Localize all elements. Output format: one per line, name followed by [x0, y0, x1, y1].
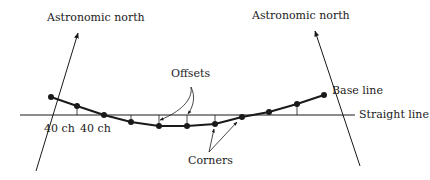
- label-straight-line: Straight line: [359, 108, 429, 121]
- label-corners: Corners: [188, 154, 233, 167]
- label-chain-1: 40 ch: [44, 122, 75, 135]
- label-base-line: Base line: [332, 84, 383, 97]
- north-arrow-right: [315, 31, 360, 166]
- label-chain-2: 40 ch: [80, 122, 111, 135]
- north-arrow-left: [36, 33, 78, 171]
- corners-leader-2: [209, 122, 237, 152]
- label-north-left: Astronomic north: [46, 11, 145, 24]
- corners-leader-1: [209, 129, 214, 152]
- survey-diagram: Astronomic north Astronomic north Offset…: [0, 0, 430, 180]
- label-north-right: Astronomic north: [251, 9, 350, 22]
- label-offsets: Offsets: [171, 67, 210, 80]
